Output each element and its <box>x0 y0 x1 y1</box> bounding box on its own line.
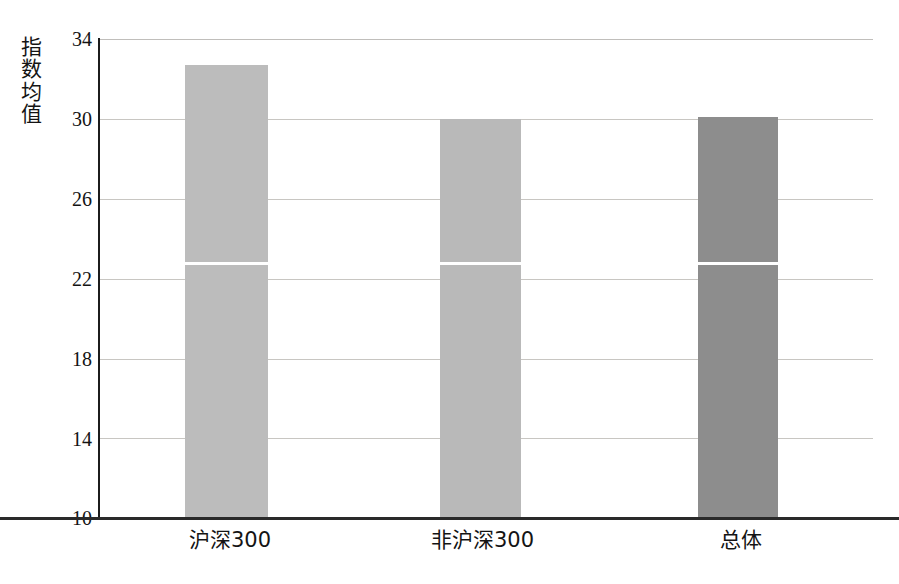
y-axis-tick-label: 18 <box>48 349 92 369</box>
y-axis-tick-label: 34 <box>48 29 92 49</box>
x-axis-line <box>0 517 899 520</box>
bar-zongti[interactable] <box>698 117 778 518</box>
y-axis-tick-label: 14 <box>48 429 92 449</box>
bar-seam <box>440 262 521 265</box>
y-axis-tick-label: 22 <box>48 269 92 289</box>
x-axis-category-label-1: 沪深300 <box>145 530 315 551</box>
bar-seam <box>698 262 778 265</box>
plot-area <box>98 39 873 518</box>
bar-fei-husheng300[interactable] <box>440 119 521 518</box>
x-axis-category-label-3: 总体 <box>653 530 828 551</box>
bar-husheng300[interactable] <box>185 65 268 518</box>
y-axis-tick-labels: 34 30 26 22 18 14 10 <box>42 0 92 584</box>
bar-chart: 指 数 均 值 34 30 26 22 18 14 10 沪深300 非沪深 <box>0 0 899 584</box>
x-axis-category-label-2: 非沪深300 <box>395 530 570 551</box>
gridline-34 <box>98 39 873 40</box>
y-axis-tick-label: 30 <box>48 109 92 129</box>
bar-seam <box>185 262 268 265</box>
y-axis-line <box>98 38 100 520</box>
y-axis-tick-label: 26 <box>48 189 92 209</box>
